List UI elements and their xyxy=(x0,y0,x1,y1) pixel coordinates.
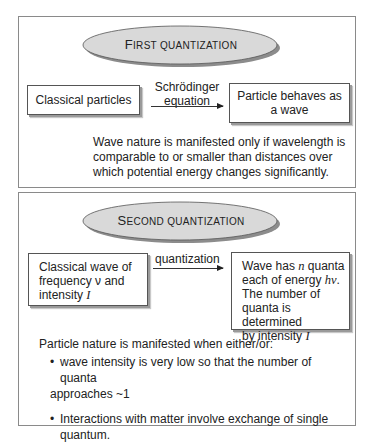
classical-particles-box: Classical particles xyxy=(27,85,140,115)
bullet-icon: • xyxy=(50,411,54,427)
schrodinger-equation-label: Schrödinger equation xyxy=(150,80,224,108)
quantization-label: quantization xyxy=(155,252,219,266)
second-quantization-title: SECOND QUANTIZATION xyxy=(80,213,282,228)
second-quantization-title-ellipse: SECOND QUANTIZATION xyxy=(80,199,282,245)
classical-particles-label: Classical particles xyxy=(35,93,131,107)
bullet-icon: • xyxy=(50,354,54,370)
classical-wave-box: Classical wave of frequency ν and intens… xyxy=(28,253,148,306)
list-item: • Interactions with matter involve excha… xyxy=(50,411,350,443)
arrow-right-icon xyxy=(153,268,223,269)
wave-quanta-box: Wave has n quanta each of energy hν. The… xyxy=(231,252,350,330)
first-quantization-title: FIRST QUANTIZATION xyxy=(80,37,282,52)
particle-nature-intro: Particle nature is manifested when eithe… xyxy=(39,337,273,352)
particle-nature-conditions: • wave intensity is very low so that the… xyxy=(50,354,350,443)
list-item: • wave intensity is very low so that the… xyxy=(50,354,350,386)
list-item-continuation: approaches ~1 xyxy=(50,386,350,402)
wave-nature-note: Wave nature is manifested only if wavele… xyxy=(93,135,345,180)
particle-behaves-as-wave-label: Particle behaves as a wave xyxy=(237,89,342,117)
arrow-right-icon xyxy=(151,106,223,107)
particle-behaves-as-wave-box: Particle behaves as a wave xyxy=(229,83,350,123)
first-quantization-title-ellipse: FIRST QUANTIZATION xyxy=(80,23,282,69)
